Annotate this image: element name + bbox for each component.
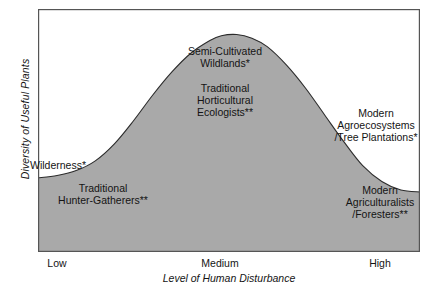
annotation-traditional-horticultural-ecologists: Traditional Horticultural Ecologists** [168, 83, 282, 118]
x-tick-label-medium: Medium [185, 257, 255, 269]
x-tick-label-low: Low [22, 257, 92, 269]
chart-figure: Diversity of Useful Plants Low Medium Hi… [0, 0, 432, 283]
annotation-semi-cultivated-wildlands: Semi-Cultivated Wildlands* [163, 46, 287, 70]
annotation-traditional-hunter-gatherers: Traditional Hunter-Gatherers** [28, 183, 178, 207]
annotation-wilderness: Wilderness* [30, 160, 120, 172]
x-tick-label-high: High [345, 257, 415, 269]
annotation-modern-agriculturalists: Modern Agriculturalists /Foresters** [330, 185, 430, 220]
x-axis-title: Level of Human Disturbance [38, 272, 420, 283]
annotation-modern-agroecosystems: Modern Agroecosystems /Tree Plantations* [320, 108, 432, 143]
